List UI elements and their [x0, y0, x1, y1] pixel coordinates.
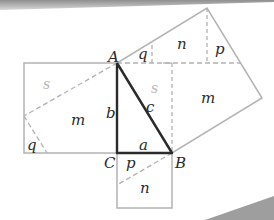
side-label-c: c	[146, 98, 155, 116]
region-label-hyp-m: m	[201, 89, 215, 107]
diagram-canvas: A C B b c a s m q p n q n p s m	[0, 0, 274, 220]
hypotenuse-square-c	[117, 8, 262, 153]
side-label-a: a	[139, 136, 148, 154]
region-label-left-s: s	[43, 76, 50, 92]
bottom-right-page-shadow	[205, 196, 274, 220]
region-label-hyp-s: s	[151, 80, 158, 96]
left-square-dash-cut-1	[24, 63, 117, 116]
pythagorean-dissection-diagram: A C B b c a s m q p n q n p s m	[0, 0, 274, 220]
region-label-hyp-n: n	[177, 35, 187, 53]
vertex-label-c: C	[104, 154, 116, 172]
vertex-label-b: B	[174, 154, 186, 172]
region-label-hyp-p: p	[215, 40, 225, 58]
region-label-bottom-p: p	[126, 154, 136, 172]
region-label-left-m: m	[71, 111, 85, 129]
region-label-bottom-n: n	[140, 179, 150, 197]
vertex-label-a: A	[106, 48, 119, 66]
side-label-b: b	[106, 104, 116, 122]
top-page-shadow	[0, 0, 274, 10]
region-label-left-q: q	[27, 136, 37, 154]
region-label-hyp-q: q	[138, 45, 148, 63]
